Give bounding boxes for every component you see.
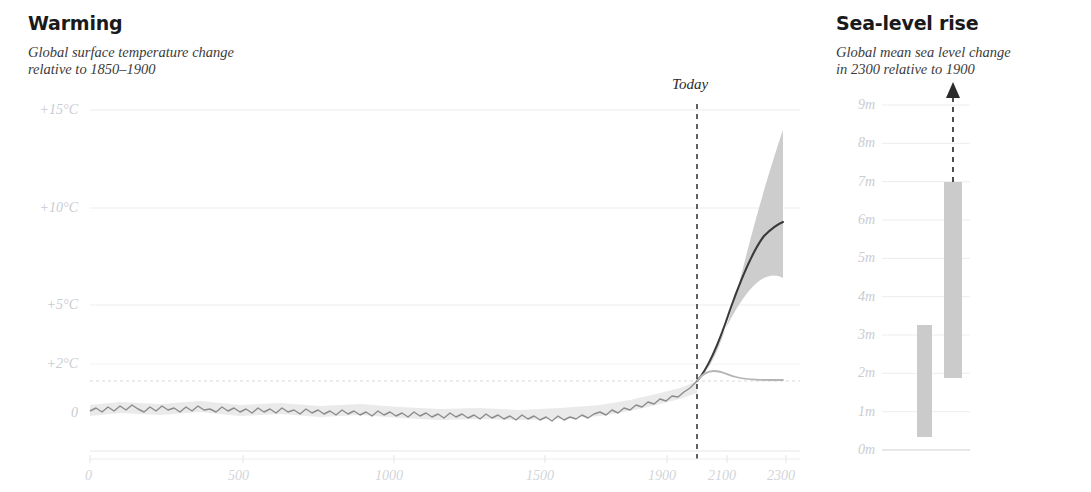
sealevel-tick-label-6m: 6m xyxy=(820,212,875,228)
sealevel-tick-label-8m: 8m xyxy=(820,135,875,151)
x-tick-label-500: 500 xyxy=(228,468,249,484)
x-tick-label-1000: 1000 xyxy=(375,468,403,484)
high-emissions-uncertainty-band xyxy=(697,130,783,381)
sealevel-tick-label-9m: 9m xyxy=(820,97,875,113)
sealevel-chart-panel: Sea-level rise Global mean sea level cha… xyxy=(820,0,1091,492)
historical-temperature-line xyxy=(90,381,697,421)
y-tick-label-5c: +5°C xyxy=(0,297,78,313)
y-tick-label-0: 0 xyxy=(0,405,78,421)
warming-gridlines xyxy=(90,110,800,364)
x-tick-label-1900: 1900 xyxy=(648,468,676,484)
x-tick-label-2300: 2300 xyxy=(767,468,795,484)
sealevel-tick-label-3m: 3m xyxy=(820,327,875,343)
y-tick-label-15c: +15°C xyxy=(0,102,78,118)
warming-plot xyxy=(0,0,820,492)
sealevel-bar-high-emissions xyxy=(944,182,962,378)
x-tick-label-2100: 2100 xyxy=(708,468,736,484)
y-tick-label-10c: +10°C xyxy=(0,200,78,216)
sealevel-bar-low-emissions xyxy=(917,325,932,437)
y-tick-label-2c: +2°C xyxy=(0,356,78,372)
sealevel-tick-label-0m: 0m xyxy=(820,442,875,458)
low-emissions-line xyxy=(697,371,783,381)
x-tick-label-1500: 1500 xyxy=(526,468,554,484)
sealevel-tick-label-2m: 2m xyxy=(820,365,875,381)
up-arrow-icon xyxy=(946,82,960,98)
sealevel-tick-label-1m: 1m xyxy=(820,404,875,420)
sealevel-tick-label-7m: 7m xyxy=(820,174,875,190)
sealevel-tick-label-4m: 4m xyxy=(820,289,875,305)
x-tick-label-0: 0 xyxy=(85,468,92,484)
warming-chart-panel: Warming Global surface temperature chang… xyxy=(0,0,820,492)
sealevel-tick-label-5m: 5m xyxy=(820,250,875,266)
